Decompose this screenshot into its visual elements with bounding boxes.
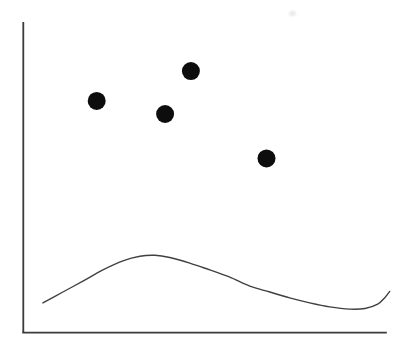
scatter-point-3 [182, 62, 200, 80]
scatter-point-4 [258, 149, 276, 167]
chart-canvas [0, 0, 411, 350]
scan-artifact [289, 11, 296, 16]
scatter-point-1 [88, 92, 106, 110]
scatter-point-2 [156, 105, 174, 123]
smooth-curve-line [43, 255, 390, 309]
chart-figure [0, 0, 411, 350]
